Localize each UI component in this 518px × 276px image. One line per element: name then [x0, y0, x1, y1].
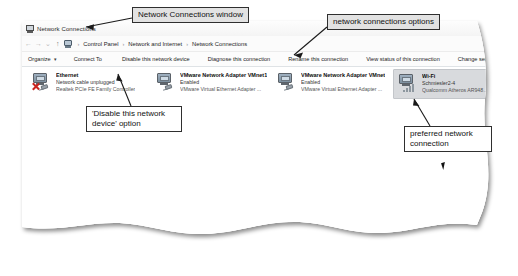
connection-device: Qualcomm Atheros AR9485 Wirel...	[422, 87, 490, 94]
mouse-cursor	[441, 161, 450, 170]
annotation-network-connections-window: Network Connections window	[132, 7, 249, 23]
breadcrumb-separator: ›	[119, 41, 127, 47]
recent-locations-icon[interactable]: ⌄	[45, 40, 51, 47]
network-address-icon	[64, 40, 72, 48]
breadcrumb-network-connections[interactable]: Network Connections	[191, 41, 248, 47]
organize-label: Organize	[28, 56, 51, 62]
forward-icon[interactable]: →	[35, 40, 42, 47]
rename-this-connection-button[interactable]: Rename this connection	[288, 56, 348, 62]
screenshot-stage: Network Connections ← → ⌄ ↑ › Control Pa…	[0, 0, 518, 276]
back-icon[interactable]: ←	[25, 40, 32, 47]
network-window-icon	[26, 25, 34, 33]
up-one-level-icon[interactable]: ↑	[56, 40, 60, 47]
diagnose-this-connection-button[interactable]: Diagnose this connection	[208, 56, 271, 62]
connection-item-vmnet1[interactable]: VMware Network Adapter VMnet1 Enabled VM…	[152, 69, 270, 99]
address-bar[interactable]: ← → ⌄ ↑ › Control Panel › Network and In…	[22, 36, 494, 52]
connection-name: Ethernet	[56, 72, 135, 79]
connection-item-ethernet[interactable]: Ethernet Network cable unplugged Realtek…	[28, 69, 148, 99]
organize-button[interactable]: Organize▾	[28, 56, 57, 62]
connection-name: VMware Network Adapter VMnet1	[180, 72, 267, 79]
connection-name: VMware Network Adapter VMnet8	[301, 72, 385, 79]
breadcrumb-separator: ›	[75, 41, 83, 47]
connection-device: VMware Virtual Ethernet Adapter ...	[301, 86, 385, 93]
annotation-network-connections-options: network connections options	[327, 14, 440, 30]
disable-this-network-device-button[interactable]: Disable this network device	[122, 56, 190, 62]
connection-device: Realtek PCIe FE Family Controller	[56, 86, 135, 93]
connection-device: VMware Virtual Ethernet Adapter ...	[180, 86, 267, 93]
connect-to-button[interactable]: Connect To	[74, 56, 102, 62]
command-toolbar[interactable]: Organize▾ Connect To Disable this networ…	[22, 52, 494, 67]
connections-list[interactable]: Ethernet Network cable unplugged Realtek…	[22, 67, 494, 249]
connection-status: Enabled	[180, 79, 267, 86]
connection-status: Network cable unplugged	[56, 79, 135, 86]
change-settings-of-this-connection-button[interactable]: Change settings of this connection	[458, 56, 494, 62]
connection-status: Schmiesler2-4	[422, 80, 490, 87]
breadcrumb-control-panel[interactable]: Control Panel	[82, 41, 119, 47]
window-title: Network Connections	[37, 26, 96, 32]
vmware-adapter-icon	[276, 72, 298, 92]
breadcrumb[interactable]: › Control Panel › Network and Internet ›…	[75, 41, 249, 47]
connection-item-wifi[interactable]: Wi-Fi Schmiesler2-4 Qualcomm Atheros AR9…	[393, 69, 494, 99]
view-status-of-this-connection-button[interactable]: View status of this connection	[366, 56, 440, 62]
annotation-preferred-network-connection: preferred network connection	[404, 126, 492, 152]
connection-name: Wi-Fi	[422, 73, 490, 80]
annotation-disable-this-network-device: 'Disable this network device' option	[86, 106, 182, 132]
wifi-signal-bars-icon	[403, 84, 415, 92]
vmware-adapter-icon	[155, 72, 177, 92]
wifi-adapter-icon	[397, 73, 419, 93]
red-x-disconnected-icon	[31, 82, 40, 91]
ethernet-adapter-icon	[31, 72, 53, 92]
breadcrumb-separator: ›	[183, 41, 191, 47]
breadcrumb-network-and-internet[interactable]: Network and Internet	[127, 41, 183, 47]
connection-item-vmnet8[interactable]: VMware Network Adapter VMnet8 Enabled VM…	[273, 69, 388, 99]
chevron-down-icon: ▾	[54, 57, 57, 62]
connection-status: Enabled	[301, 79, 385, 86]
